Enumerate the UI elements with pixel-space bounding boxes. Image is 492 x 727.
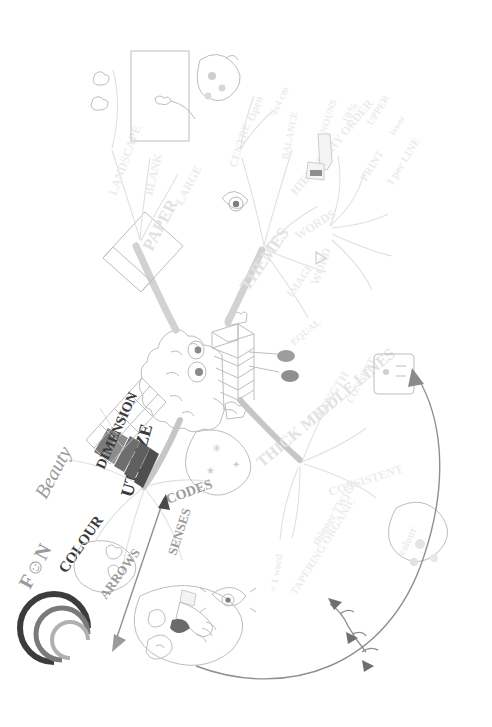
branch-paper[interactable]: PAPER LANDSCAPE BLANK LARGE xyxy=(91,51,205,292)
sub-label-length-sub: = 1 word xyxy=(267,553,284,593)
branch-utilize[interactable]: UTILIZE DIMENSION CODES ✳ ✦ ★ xyxy=(14,378,256,665)
branch-themes[interactable]: THEMES CENTRE Open 4x4 cm BALANCE xyxy=(197,54,422,347)
sub-label-senses: SENSES xyxy=(165,506,194,557)
eye-icon-senses xyxy=(200,587,256,612)
sub-label-one-per-line: 1 per LINE xyxy=(384,135,423,187)
sub-label-arrows: ARROWS xyxy=(96,546,143,602)
sub-label-lower: lower xyxy=(387,114,407,138)
nose-icon xyxy=(148,609,165,627)
sub-label-balance: BALANCE xyxy=(279,110,300,160)
sub-label-tapering: TAPERING ORGANIC xyxy=(288,495,358,597)
colour-palette-icon xyxy=(197,54,240,100)
mindmap-svg: PAPER LANDSCAPE BLANK LARGE THEMES xyxy=(0,0,492,727)
mindmap-canvas: PAPER LANDSCAPE BLANK LARGE THEMES xyxy=(0,0,492,727)
sub-label-colour: COLOUR xyxy=(55,512,106,575)
branch-label-themes: THEMES xyxy=(236,224,293,294)
sub-label-blank: BLANK xyxy=(141,151,165,196)
branch-stroke-paper xyxy=(136,246,176,330)
sub-label-open: Open xyxy=(245,94,265,122)
rainbow-arc-icon xyxy=(20,594,88,662)
pen-writing-icon xyxy=(306,134,332,180)
hand-icon xyxy=(176,590,216,642)
sub-label-nouns: NOUNS xyxy=(317,98,338,135)
sub-label-equal: EQUAL xyxy=(288,316,323,347)
branch-lines[interactable]: THICK MIDDLE LINES LENGTH CONNECT CONSIS… xyxy=(253,345,448,672)
sub-label-fun: F☺N xyxy=(14,539,56,591)
sub-label-large: LARGE xyxy=(172,163,204,207)
branching-twig-icon xyxy=(328,598,378,672)
sub-label-centre: CENTRE xyxy=(226,121,252,168)
ear-icon xyxy=(146,635,172,659)
code-symbols-icon: ✳ ✦ ★ xyxy=(185,430,250,495)
sub-label-print: PRINT xyxy=(358,147,387,183)
colour-blobs-icon xyxy=(388,502,447,566)
sub-label-colour-small: colour xyxy=(395,525,419,557)
code-glyph-3: ★ xyxy=(206,465,215,476)
code-glyph: ✳ xyxy=(212,442,221,454)
sub-label-size: 4x4 cm xyxy=(268,84,291,117)
eye-icon xyxy=(222,191,248,211)
code-glyph-2: ✦ xyxy=(232,459,240,470)
sub-label-landscape: LANDSCAPE xyxy=(106,123,144,197)
mouth-icon xyxy=(170,619,190,633)
sub-label-beauty: Beauty xyxy=(30,442,76,502)
center-brain-image xyxy=(139,312,299,432)
